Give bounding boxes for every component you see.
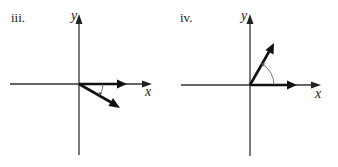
- x-axis-arrowhead-icon: [311, 82, 321, 89]
- coordinate-diagram: [0, 0, 169, 167]
- y-axis-arrowhead-icon: [247, 14, 254, 24]
- rotated-vector-arrowhead-icon: [109, 98, 121, 108]
- angle-arc: [262, 64, 274, 85]
- unit-x-vector-arrowhead-icon: [117, 80, 127, 89]
- x-axis-arrowhead-icon: [142, 81, 152, 88]
- coordinate-diagram: [169, 0, 338, 167]
- y-axis-arrowhead-icon: [76, 14, 83, 24]
- rotated-vector: [79, 84, 114, 104]
- panel-iii: iii. y x: [0, 0, 169, 167]
- panel-iv: iv. y x: [169, 0, 338, 167]
- unit-x-vector-arrowhead-icon: [287, 81, 297, 90]
